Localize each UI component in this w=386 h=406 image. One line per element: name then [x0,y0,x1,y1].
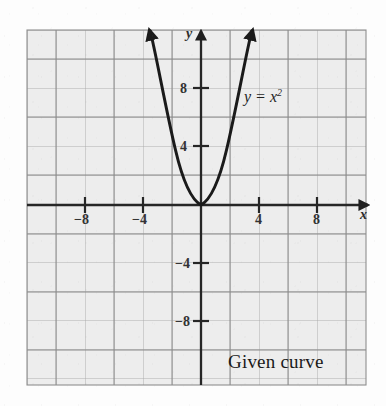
equation-exponent: 2 [277,87,282,98]
y-tick-label--8: −8 [175,315,190,329]
x-tick-label--8: −8 [74,213,89,227]
x-tick-label--4: −4 [132,213,147,227]
y-tick-label-8: 8 [180,82,187,96]
x-tick-label-4: 4 [255,213,262,227]
graph-canvas [0,0,386,406]
y-tick-label--4: −4 [175,257,190,271]
equation-label: y = x2 [244,89,282,105]
equation-base: y = x [244,88,277,105]
y-tick-label-4: 4 [180,140,187,154]
grid [27,30,366,385]
x-tick-label-8: 8 [313,213,320,227]
x-axis-label: x [360,208,367,222]
given-curve-figure: −8 −4 4 8 8 4 −4 −8 y x y = x2 Given cur… [0,0,386,406]
y-axis-label: y [186,27,192,41]
figure-caption: Given curve [228,352,324,371]
